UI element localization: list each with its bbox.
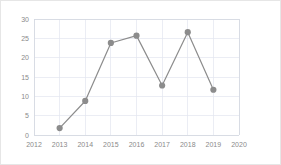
data-point-marker — [210, 87, 216, 93]
y-tick-label: 5 — [25, 112, 29, 119]
x-tick-label: 2018 — [180, 141, 196, 148]
y-axis-tick-labels: 051015202530 — [21, 16, 29, 139]
y-tick-label: 15 — [21, 74, 29, 81]
x-tick-label: 2020 — [231, 141, 247, 148]
data-point-marker — [185, 29, 191, 35]
x-tick-label: 2012 — [26, 141, 42, 148]
y-tick-label: 25 — [21, 35, 29, 42]
data-point-marker — [108, 40, 114, 46]
chart-figure: 051015202530 201220132014201520162017201… — [0, 0, 281, 165]
y-tick-label: 10 — [21, 93, 29, 100]
x-tick-label: 2015 — [103, 141, 119, 148]
x-tick-label: 2013 — [52, 141, 68, 148]
x-tick-label: 2019 — [206, 141, 222, 148]
y-tick-label: 30 — [21, 16, 29, 23]
data-point-marker — [159, 82, 165, 88]
data-point-marker — [82, 98, 88, 104]
x-axis-tick-labels: 201220132014201520162017201820192020 — [26, 141, 247, 148]
y-tick-label: 20 — [21, 54, 29, 61]
data-point-marker — [57, 125, 63, 131]
x-tick-label: 2014 — [77, 141, 93, 148]
data-point-marker — [133, 33, 139, 39]
x-tick-label: 2017 — [154, 141, 170, 148]
x-tick-label: 2016 — [129, 141, 145, 148]
line-chart: 051015202530 201220132014201520162017201… — [1, 1, 281, 165]
y-tick-label: 0 — [25, 132, 29, 139]
